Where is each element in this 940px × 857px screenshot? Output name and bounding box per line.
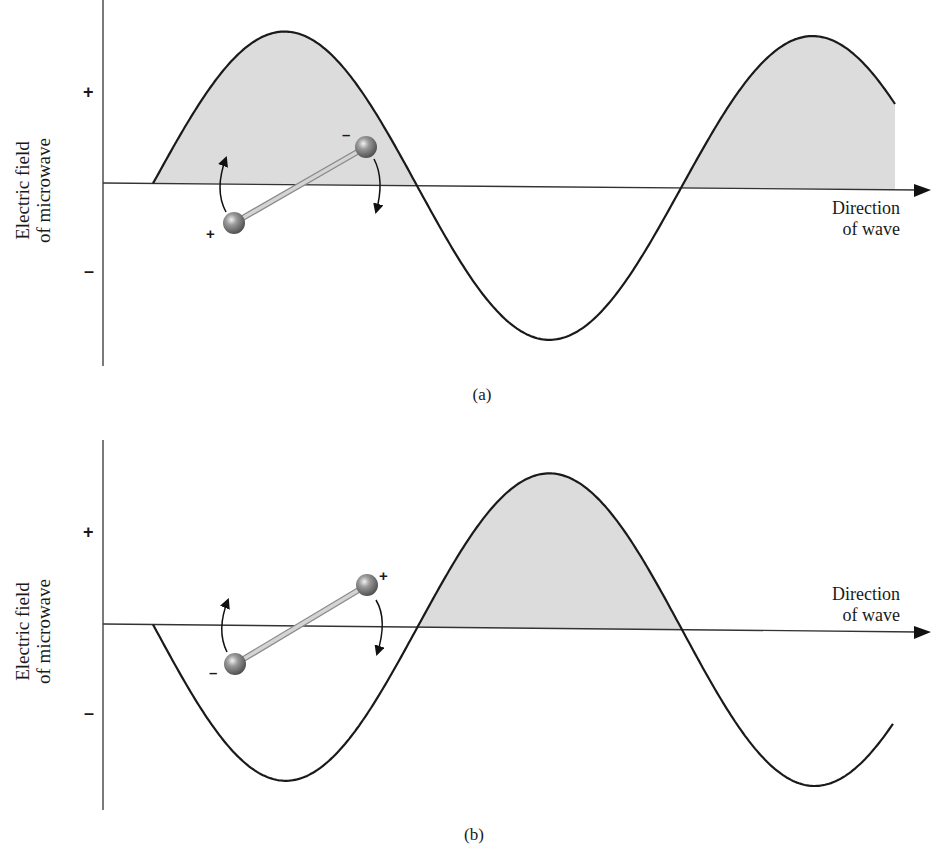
dipole-molecule	[224, 574, 378, 675]
dipole-charge-left: –	[209, 665, 217, 680]
dipole-charge-right: +	[379, 568, 388, 583]
panel-caption: (b)	[444, 825, 504, 845]
positive-region-shading	[153, 32, 417, 186]
x-axis-label: Direction of wave	[805, 198, 900, 240]
y-axis-label-line2: of microwave	[33, 138, 54, 243]
direction-arrowhead-icon	[914, 626, 931, 639]
x-axis-label-line2: of wave	[805, 605, 900, 626]
y-plus-marker: +	[83, 523, 94, 541]
x-axis-label-line1: Direction	[805, 584, 900, 605]
positive-region-shading	[681, 36, 895, 190]
negative-atom	[224, 653, 246, 675]
positive-atom	[223, 212, 245, 234]
direction-arrowhead-icon	[914, 184, 931, 197]
panel-b: Electric field of microwave + – – + Dire…	[0, 420, 940, 857]
x-axis-label: Direction of wave	[805, 584, 900, 626]
y-minus-marker: –	[84, 262, 94, 280]
dipole-charge-left: +	[206, 226, 215, 241]
positive-region-shading	[419, 473, 681, 629]
positive-atom	[356, 574, 378, 596]
panel-caption: (a)	[452, 385, 512, 405]
dipole-charge-right: –	[342, 127, 350, 142]
wave-diagram-a	[0, 0, 940, 420]
y-axis-label-line2: of microwave	[33, 579, 54, 684]
y-axis-label: Electric field of microwave	[12, 579, 54, 684]
y-axis-label-line1: Electric field	[12, 138, 33, 243]
x-axis-label-line2: of wave	[805, 219, 900, 240]
rotation-arrow-up-icon	[222, 600, 228, 652]
wave-diagram-b	[0, 420, 940, 857]
y-axis-label-line1: Electric field	[12, 579, 33, 684]
x-axis-label-line1: Direction	[805, 198, 900, 219]
y-minus-marker: –	[84, 704, 94, 722]
y-plus-marker: +	[83, 83, 94, 101]
panel-a: Electric field of microwave + – + – Dire…	[0, 0, 940, 420]
negative-atom	[355, 136, 377, 158]
y-axis-label: Electric field of microwave	[12, 138, 54, 243]
